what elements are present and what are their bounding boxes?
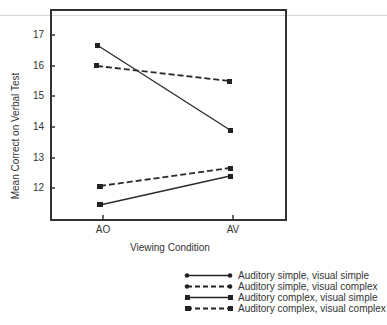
y-axis-label: Mean Correct on Verbal Test [10,73,21,200]
solid-line-circle-marker-icon [184,270,234,281]
legend: Auditory simple, visual simple Auditory … [184,270,386,314]
y-tick-label: 17 [24,29,44,40]
dashed-line-circle-marker-icon [184,281,234,292]
series-auditory-complex-visual-complex [97,166,233,189]
legend-item: Auditory simple, visual simple [184,270,386,281]
legend-label: Auditory simple, visual simple [238,270,369,281]
legend-item: Auditory complex, visual simple [184,292,386,303]
legend-label: Auditory simple, visual complex [238,281,378,292]
plot-frame [51,10,286,220]
series-auditory-simple-visual-complex [94,63,232,84]
y-tick-label: 12 [24,182,44,193]
legend-item: Auditory complex, visual complex [184,303,386,314]
series-auditory-simple-visual-simple [95,43,233,133]
y-tick-label: 13 [24,152,44,163]
legend-label: Auditory complex, visual complex [238,303,386,314]
y-tick-label: 15 [24,90,44,101]
x-tick-label: AO [96,224,110,235]
solid-line-square-marker-icon [184,292,234,303]
dashed-line-square-marker-icon [184,303,234,314]
x-axis-label: Viewing Condition [130,242,210,253]
y-tick-label: 16 [24,60,44,71]
series-auditory-complex-visual-simple [97,174,233,207]
legend-item: Auditory simple, visual complex [184,281,386,292]
legend-label: Auditory complex, visual simple [238,292,378,303]
x-tick-label: AV [227,224,240,235]
y-tick-label: 14 [24,121,44,132]
